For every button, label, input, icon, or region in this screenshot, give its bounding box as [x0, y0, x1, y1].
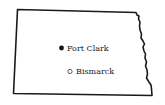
fort-clark-label: Fort Clark: [67, 45, 109, 53]
state-map: [0, 0, 165, 105]
bismarck-marker-icon: [68, 69, 72, 73]
state-outline: [14, 10, 153, 96]
bismarck-label: Bismarck: [76, 68, 114, 76]
fort-clark-marker-icon: [59, 46, 64, 51]
